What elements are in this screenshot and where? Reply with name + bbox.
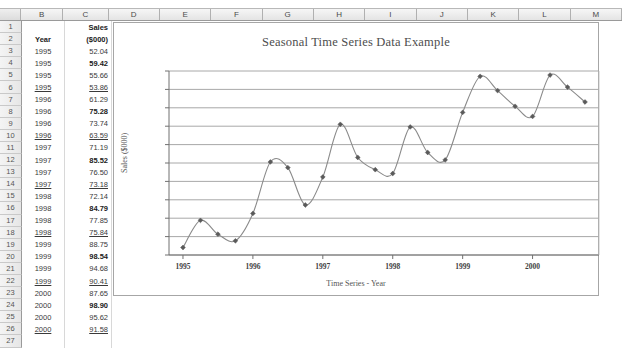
column-header-K[interactable]: K — [468, 9, 519, 20]
cell-b17[interactable]: 1998 — [22, 215, 65, 227]
cell-c22[interactable]: 90.41 — [65, 275, 112, 287]
cell-c3[interactable]: 52.04 — [65, 45, 112, 57]
cell-b23[interactable]: 2000 — [22, 287, 65, 299]
row-header-22[interactable]: 22 — [0, 275, 22, 287]
cell-c12[interactable]: 85.52 — [65, 154, 112, 166]
cell-c23[interactable]: 87.65 — [65, 287, 112, 299]
cell-b5[interactable]: 1995 — [22, 69, 65, 81]
cell-b10[interactable]: 1996 — [22, 130, 65, 142]
cell-b13[interactable]: 1997 — [22, 166, 65, 178]
cell-b16[interactable]: 1998 — [22, 202, 65, 214]
cell-b4[interactable]: 1995 — [22, 57, 65, 69]
data-cells: SalesYear($000)199552.04199559.42199555.… — [22, 21, 112, 348]
column-header-J[interactable]: J — [417, 9, 468, 20]
cell-c19[interactable]: 88.75 — [65, 239, 112, 251]
column-header-I[interactable]: I — [365, 9, 416, 20]
table-row: 199877.85 — [22, 215, 112, 227]
row-header-16[interactable]: 16 — [0, 202, 22, 214]
column-header-M[interactable]: M — [571, 9, 622, 20]
row-header-8[interactable]: 8 — [0, 106, 22, 118]
cell-c20[interactable]: 98.54 — [65, 251, 112, 263]
column-header-G[interactable]: G — [263, 9, 314, 20]
cell-b21[interactable]: 1999 — [22, 263, 65, 275]
row-header-18[interactable]: 18 — [0, 227, 22, 239]
row-header-1[interactable]: 1 — [0, 21, 22, 33]
cell-b6[interactable]: 1995 — [22, 81, 65, 93]
row-header-4[interactable]: 4 — [0, 57, 22, 69]
cell-b22[interactable]: 1999 — [22, 275, 65, 287]
cell-b14[interactable]: 1997 — [22, 178, 65, 190]
cell-b24[interactable]: 2000 — [22, 299, 65, 311]
chart-object[interactable]: Seasonal Time Series Data Example Sales … — [113, 22, 599, 296]
cell-c27[interactable] — [65, 335, 112, 347]
row-header-24[interactable]: 24 — [0, 299, 22, 311]
cell-c14[interactable]: 73.18 — [65, 178, 112, 190]
row-header-13[interactable]: 13 — [0, 166, 22, 178]
sheet-corner[interactable] — [0, 9, 21, 20]
cell-b7[interactable]: 1996 — [22, 94, 65, 106]
cell-c17[interactable]: 77.85 — [65, 215, 112, 227]
row-header-26[interactable]: 26 — [0, 323, 22, 335]
cell-c2[interactable]: ($000) — [65, 33, 112, 45]
cell-c13[interactable]: 76.50 — [65, 166, 112, 178]
table-row: 200098.90 — [22, 299, 112, 311]
cell-b26[interactable]: 2000 — [22, 323, 65, 335]
row-header-7[interactable]: 7 — [0, 94, 22, 106]
cell-b18[interactable]: 1998 — [22, 227, 65, 239]
cell-c6[interactable]: 53.86 — [65, 81, 112, 93]
column-header-H[interactable]: H — [314, 9, 365, 20]
cell-b15[interactable]: 1998 — [22, 190, 65, 202]
cell-c16[interactable]: 84.79 — [65, 202, 112, 214]
cell-b8[interactable]: 1996 — [22, 106, 65, 118]
cell-b27[interactable] — [22, 335, 65, 347]
cell-b9[interactable]: 1996 — [22, 118, 65, 130]
row-header-14[interactable]: 14 — [0, 178, 22, 190]
column-header-B[interactable]: B — [21, 9, 63, 20]
cell-c18[interactable]: 75.84 — [65, 227, 112, 239]
cell-c25[interactable]: 95.62 — [65, 311, 112, 323]
cell-c9[interactable]: 73.74 — [65, 118, 112, 130]
row-header-5[interactable]: 5 — [0, 69, 22, 81]
cell-c7[interactable]: 61.29 — [65, 94, 112, 106]
column-header-F[interactable]: F — [211, 9, 262, 20]
row-header-6[interactable]: 6 — [0, 81, 22, 93]
row-header-15[interactable]: 15 — [0, 190, 22, 202]
row-header-10[interactable]: 10 — [0, 130, 22, 142]
cell-b1[interactable] — [22, 21, 65, 33]
column-header-C[interactable]: C — [63, 9, 109, 20]
column-header-E[interactable]: E — [160, 9, 211, 20]
row-header-11[interactable]: 11 — [0, 142, 22, 154]
cell-c5[interactable]: 55.66 — [65, 69, 112, 81]
row-header-25[interactable]: 25 — [0, 311, 22, 323]
cell-b12[interactable]: 1997 — [22, 154, 65, 166]
cell-b20[interactable]: 1999 — [22, 251, 65, 263]
cell-c10[interactable]: 63.59 — [65, 130, 112, 142]
row-header-23[interactable]: 23 — [0, 287, 22, 299]
cell-b2[interactable]: Year — [22, 33, 65, 45]
cell-c15[interactable]: 72.14 — [65, 190, 112, 202]
row-header-17[interactable]: 17 — [0, 215, 22, 227]
cell-c26[interactable]: 91.58 — [65, 323, 112, 335]
cell-c4[interactable]: 59.42 — [65, 57, 112, 69]
table-row: 199675.28 — [22, 106, 112, 118]
column-header-L[interactable]: L — [519, 9, 570, 20]
cell-c1[interactable]: Sales — [65, 21, 112, 33]
column-header-D[interactable]: D — [109, 9, 160, 20]
row-header-21[interactable]: 21 — [0, 263, 22, 275]
row-header-20[interactable]: 20 — [0, 251, 22, 263]
cell-b19[interactable]: 1999 — [22, 239, 65, 251]
row-header-3[interactable]: 3 — [0, 45, 22, 57]
row-header-27[interactable]: 27 — [0, 335, 22, 347]
cell-b25[interactable]: 2000 — [22, 311, 65, 323]
row-header-19[interactable]: 19 — [0, 239, 22, 251]
row-header-2[interactable]: 2 — [0, 33, 22, 45]
cell-c8[interactable]: 75.28 — [65, 106, 112, 118]
row-header-9[interactable]: 9 — [0, 118, 22, 130]
row-header-12[interactable]: 12 — [0, 154, 22, 166]
cell-c21[interactable]: 94.68 — [65, 263, 112, 275]
cell-b11[interactable]: 1997 — [22, 142, 65, 154]
cell-b3[interactable]: 1995 — [22, 45, 65, 57]
cell-c11[interactable]: 71.19 — [65, 142, 112, 154]
cell-c24[interactable]: 98.90 — [65, 299, 112, 311]
